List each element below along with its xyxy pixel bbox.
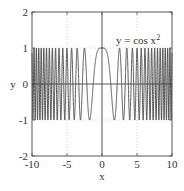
x-tick-label: -5 (62, 158, 72, 170)
cos-x-squared-chart: -10-50510 210-1-2 x y y = cos x2 (0, 0, 184, 191)
curve-annotation: y = cos x2 (113, 33, 165, 47)
y-tick-labels: 210-1-2 (19, 6, 29, 162)
y-tick-label: 0 (23, 78, 29, 90)
annotation-superscript: 2 (156, 33, 160, 42)
x-tick-label: 10 (167, 158, 179, 170)
x-tick-label: 0 (99, 158, 105, 170)
y-tick-label: 2 (23, 6, 29, 18)
y-tick-label: -2 (19, 150, 28, 162)
y-tick-label: -1 (19, 114, 28, 126)
x-tick-label: 5 (134, 158, 140, 170)
svg-text:y = cos x2: y = cos x2 (116, 33, 160, 46)
x-axis-label: x (99, 170, 105, 182)
y-tick-label: 1 (23, 42, 29, 54)
annotation-text: y = cos x (116, 34, 157, 46)
y-axis-label: y (10, 78, 16, 90)
x-tick-labels: -10-50510 (25, 158, 178, 170)
